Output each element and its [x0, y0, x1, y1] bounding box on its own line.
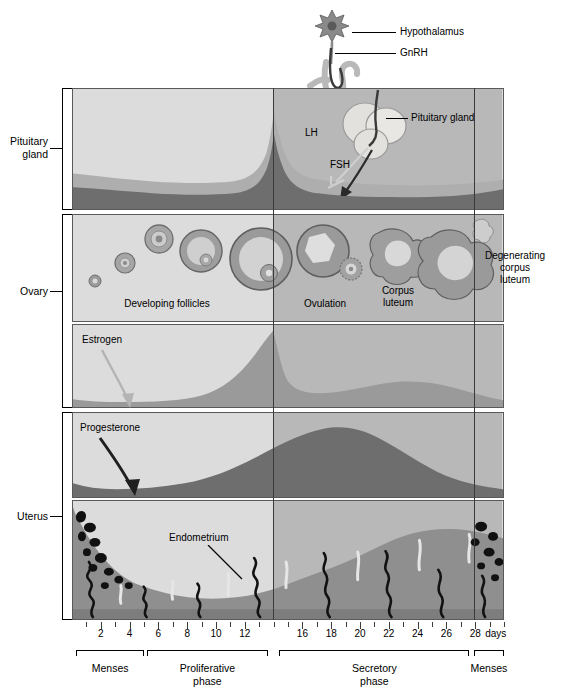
developing-follicles-label: Developing follicles: [124, 298, 210, 310]
axis-tick-day-29: [490, 622, 491, 627]
axis-day-label-10: 10: [210, 628, 221, 639]
phase-label-secretory: Secretory phase: [314, 662, 434, 687]
axis-day-label-8: 8: [184, 628, 190, 639]
phase-bracket-proliferative: [147, 650, 268, 656]
phase-label-proliferative: Proliferative phase: [147, 662, 267, 687]
panel-pituitary-hormones: [72, 88, 504, 210]
gnrh-label: GnRH: [400, 47, 428, 59]
bracket-label-ovary: Ovary: [0, 285, 48, 298]
axis-tick-day-5: [144, 622, 145, 627]
axis-day-label-6: 6: [156, 628, 162, 639]
phase-bracket-secretory: [279, 650, 469, 656]
axis-tick-day-1: [86, 622, 87, 627]
bracket-label-uterus: Uterus: [0, 510, 48, 523]
axis-day-label-24: 24: [412, 628, 423, 639]
estrogen-label: Estrogen: [82, 334, 122, 346]
hypothalamus-leader: [352, 32, 396, 33]
bracket-pituitary: [62, 88, 63, 210]
axis-tick-day-3: [115, 622, 116, 627]
axis-day-label-16: 16: [297, 628, 308, 639]
axis-tick-day-30: [504, 622, 505, 627]
divider-cycle-end: [474, 88, 475, 620]
fsh-label: FSH: [330, 159, 350, 171]
axis-tick-day-13: [259, 622, 260, 627]
axis-day-label-20: 20: [354, 628, 365, 639]
panel-estrogen: [72, 324, 504, 408]
axis-day-label-2: 2: [98, 628, 104, 639]
axis-tick-day-23: [403, 622, 404, 627]
phase-bracket-menses: [76, 650, 144, 656]
progesterone-label: Progesterone: [80, 422, 140, 434]
axis-tick-day-15: [288, 622, 289, 627]
axis-day-label-22: 22: [383, 628, 394, 639]
axis-day-label-12: 12: [239, 628, 250, 639]
hypothalamus-label: Hypothalamus: [400, 26, 464, 38]
lh-label: LH: [305, 127, 318, 139]
bracket-uterus: [62, 412, 63, 620]
bracket-ovary-lead: [50, 291, 62, 292]
hypothalamus-neuron-icon: [315, 10, 349, 42]
degenerating-corpus-luteum-label: Degenerating corpus luteum: [485, 250, 545, 286]
axis-tick-day-9: [202, 622, 203, 627]
panel-uterus-endometrium: [72, 500, 504, 620]
pituitary-gland-leader: [386, 118, 408, 119]
bracket-ovary: [62, 214, 63, 408]
axis-tick-day-25: [432, 622, 433, 627]
axis-day-label-26: 26: [441, 628, 452, 639]
day-axis: 2468101216182022242628days: [72, 622, 504, 636]
corpus-luteum-label: Corpus luteum: [382, 285, 414, 309]
phase-label-menses2: Menses: [429, 662, 549, 675]
axis-tick-day-7: [173, 622, 174, 627]
bracket-uterus-lead: [50, 516, 62, 517]
axis-tick-day-19: [346, 622, 347, 627]
divider-ovulation: [273, 88, 274, 620]
pituitary-gland-label: Pituitary gland: [411, 112, 474, 124]
axis-tick-day-17: [317, 622, 318, 627]
axis-tick-day-21: [374, 622, 375, 627]
phase-bracket-menses2: [474, 650, 504, 656]
axis-day-label-18: 18: [326, 628, 337, 639]
bracket-label-pituitary: Pituitary gland: [0, 135, 48, 160]
gnrh-leader: [335, 53, 396, 54]
axis-tick-day-14: [274, 622, 275, 627]
axis-day-label-4: 4: [127, 628, 133, 639]
axis-tick-day-11: [230, 622, 231, 627]
ovulation-label: Ovulation: [304, 298, 346, 310]
endometrium-label: Endometrium: [169, 532, 228, 544]
bracket-pituitary-lead: [50, 148, 62, 149]
axis-unit-label: days: [485, 628, 506, 639]
axis-tick-day-27: [461, 622, 462, 627]
axis-day-label-28: 28: [470, 628, 481, 639]
